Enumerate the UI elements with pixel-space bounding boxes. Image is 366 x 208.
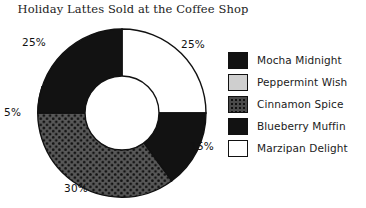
legend-swatch-mocha-midnight — [228, 52, 248, 69]
legend-label-peppermint-wish: Peppermint Wish — [257, 76, 347, 88]
chart-title: Holiday Lattes Sold at the Coffee Shop — [0, 2, 266, 16]
data-label-blueberry-muffin: 15% — [190, 140, 214, 152]
legend-label-blueberry-muffin: Blueberry Muffin — [257, 120, 346, 132]
legend-swatch-blueberry-muffin — [228, 118, 248, 135]
data-label-cinnamon-spice: 30% — [64, 182, 88, 194]
legend-item-marzipan-delight[interactable]: Marzipan Delight — [228, 137, 366, 159]
legend-label-mocha-midnight: Mocha Midnight — [257, 54, 342, 66]
donut-svg — [36, 27, 208, 199]
legend-item-blueberry-muffin[interactable]: Blueberry Muffin — [228, 115, 366, 137]
donut-hole — [85, 76, 159, 150]
chart-legend: Mocha Midnight Peppermint Wish Cinnamon … — [228, 49, 366, 159]
chart-root: Holiday Lattes Sold at the Coffee Shop — [0, 0, 366, 208]
legend-swatch-marzipan-delight — [228, 140, 248, 157]
legend-swatch-peppermint-wish — [228, 74, 248, 91]
data-label-peppermint-wish: 5% — [4, 106, 21, 118]
legend-label-marzipan-delight: Marzipan Delight — [257, 142, 348, 154]
data-label-marzipan-delight: 25% — [181, 38, 205, 50]
legend-item-peppermint-wish[interactable]: Peppermint Wish — [228, 71, 366, 93]
data-label-mocha-midnight: 25% — [22, 36, 46, 48]
legend-label-cinnamon-spice: Cinnamon Spice — [257, 98, 344, 110]
legend-item-mocha-midnight[interactable]: Mocha Midnight — [228, 49, 366, 71]
donut-chart — [36, 27, 208, 199]
legend-item-cinnamon-spice[interactable]: Cinnamon Spice — [228, 93, 366, 115]
legend-swatch-cinnamon-spice — [228, 96, 248, 113]
